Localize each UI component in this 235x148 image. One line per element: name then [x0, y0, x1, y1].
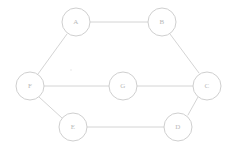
graph-node-g[interactable]: G — [109, 72, 137, 100]
graph-node-b[interactable]: B — [148, 8, 176, 36]
graph-node-label-a: A — [73, 18, 78, 26]
graph-node-label-b: B — [160, 18, 165, 26]
graph-node-c[interactable]: C — [193, 72, 221, 100]
graph-node-label-g: G — [120, 82, 125, 90]
graph-node-e[interactable]: E — [59, 113, 87, 141]
graph-node-label-d: D — [175, 123, 180, 131]
graph-edge-f-a — [38, 34, 67, 74]
graph-edge-b-c — [170, 34, 199, 73]
graph-node-a[interactable]: A — [62, 8, 90, 36]
graph-diagram-svg: ABCDEFG — [0, 0, 235, 148]
graph-node-d[interactable]: D — [164, 113, 192, 141]
graph-edge-c-d — [188, 97, 198, 115]
graph-node-label-e: E — [71, 123, 75, 131]
graph-node-f[interactable]: F — [16, 72, 44, 100]
graph-node-label-f: F — [28, 82, 32, 90]
node-layer: ABCDEFG — [16, 8, 221, 141]
graph-edge-e-f — [39, 97, 62, 118]
graph-node-label-c: C — [205, 82, 210, 90]
graph-diagram-canvas: ABCDEFG — [0, 0, 235, 148]
background-speck — [70, 69, 72, 71]
